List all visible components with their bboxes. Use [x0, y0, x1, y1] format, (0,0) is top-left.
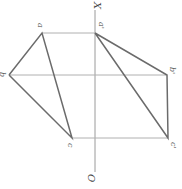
label-c-prime: c': [169, 142, 178, 149]
label-b-prime: b': [168, 67, 177, 74]
label-c: c: [66, 143, 75, 148]
elevation-edges: [95, 33, 168, 138]
plan-edges: [9, 33, 72, 138]
axis-start-label: X: [92, 1, 103, 10]
label-a-prime: a': [97, 22, 106, 29]
label-b: b: [0, 72, 7, 77]
axis-end-label: O: [86, 174, 97, 182]
diagram-svg: X O a b c a' b' c': [0, 0, 182, 189]
projection-diagram: X O a b c a' b' c': [0, 0, 182, 189]
label-a: a: [36, 23, 45, 28]
